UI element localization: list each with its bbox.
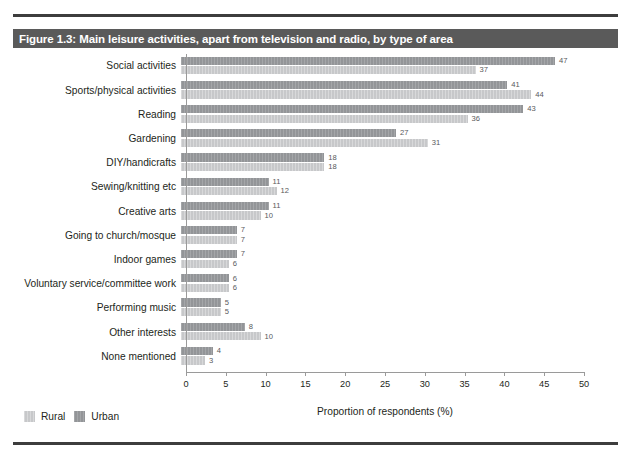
bar-group-row: Going to church/mosque77 — [0, 223, 631, 247]
figure-container: Figure 1.3: Main leisure activities, apa… — [0, 0, 631, 454]
x-tick-mark — [186, 372, 187, 376]
bar-urban[interactable] — [181, 274, 229, 282]
category-label: Sports/physical activities — [0, 85, 181, 96]
category-label: None mentioned — [0, 351, 181, 362]
bar-urban[interactable] — [181, 226, 237, 234]
bar-value-label: 47 — [555, 57, 567, 65]
bar-value-label: 37 — [476, 66, 488, 74]
bar-line-urban: 7 — [181, 250, 245, 258]
bar-line-rural: 37 — [181, 66, 488, 74]
bar-rural[interactable] — [181, 187, 277, 195]
x-tick-label: 0 — [183, 379, 188, 389]
bar-line-rural: 36 — [181, 115, 480, 123]
legend-swatch-urban-icon — [74, 411, 85, 422]
bar-line-rural: 7 — [181, 236, 245, 244]
bar-group-row: Creative arts1110 — [0, 199, 631, 223]
category-label: Indoor games — [0, 254, 181, 265]
bars-wrap: 1112 — [181, 175, 631, 199]
bar-line-rural: 6 — [181, 284, 237, 292]
bar-line-urban: 11 — [181, 202, 280, 210]
bars-wrap: 76 — [181, 248, 631, 272]
bar-urban[interactable] — [181, 153, 324, 161]
bar-value-label: 4 — [213, 347, 221, 355]
category-label: Reading — [0, 109, 181, 120]
category-label: Other interests — [0, 327, 181, 338]
plot-area: Social activities4737Sports/physical act… — [0, 54, 631, 376]
bar-rural[interactable] — [181, 139, 428, 147]
bar-value-label: 41 — [507, 81, 519, 89]
bar-value-label: 31 — [428, 139, 440, 147]
figure-title-band: Figure 1.3: Main leisure activities, apa… — [13, 29, 618, 48]
bars-wrap: 1818 — [181, 151, 631, 175]
bar-value-label: 6 — [229, 260, 237, 268]
bar-urban[interactable] — [181, 323, 245, 331]
x-tick-label: 15 — [300, 379, 310, 389]
bar-value-label: 11 — [269, 202, 281, 210]
bar-group-row: None mentioned43 — [0, 344, 631, 368]
bar-rural[interactable] — [181, 284, 229, 292]
bar-value-label: 6 — [229, 275, 237, 283]
legend-item-urban: Urban — [74, 411, 119, 422]
chart-legend: Rural Urban — [24, 411, 119, 422]
bar-rural[interactable] — [181, 356, 205, 364]
x-tick-mark — [345, 372, 346, 376]
category-label: Social activities — [0, 60, 181, 71]
bar-line-urban: 43 — [181, 105, 536, 113]
legend-swatch-rural-icon — [24, 411, 35, 422]
category-label: Creative arts — [0, 206, 181, 217]
x-tick-mark — [226, 372, 227, 376]
x-tick-label: 40 — [499, 379, 509, 389]
bar-rural[interactable] — [181, 260, 229, 268]
bar-group-row: Social activities4737 — [0, 54, 631, 78]
bar-line-urban: 47 — [181, 57, 568, 65]
bar-line-urban: 7 — [181, 226, 245, 234]
bar-rural[interactable] — [181, 236, 237, 244]
x-tick-mark — [385, 372, 386, 376]
bar-urban[interactable] — [181, 250, 237, 258]
bar-value-label: 36 — [468, 115, 480, 123]
bar-value-label: 5 — [221, 308, 229, 316]
x-axis-title: Proportion of respondents (%) — [186, 406, 584, 417]
bar-urban[interactable] — [181, 81, 507, 89]
bar-urban[interactable] — [181, 129, 396, 137]
bar-line-urban: 6 — [181, 274, 237, 282]
x-axis-ticks: 05101520253035404550 — [0, 372, 631, 396]
x-tick-mark — [425, 372, 426, 376]
y-axis-line — [186, 54, 187, 372]
bar-value-label: 10 — [261, 212, 273, 220]
bar-value-label: 10 — [261, 333, 273, 341]
bar-urban[interactable] — [181, 57, 555, 65]
x-tick-mark — [305, 372, 306, 376]
bottom-rule — [13, 442, 618, 445]
bar-line-urban: 8 — [181, 323, 253, 331]
bar-value-label: 11 — [269, 178, 281, 186]
bar-line-urban: 18 — [181, 153, 337, 161]
bar-rural[interactable] — [181, 332, 261, 340]
bar-urban[interactable] — [181, 178, 269, 186]
bars-wrap: 1110 — [181, 199, 631, 223]
category-label: Going to church/mosque — [0, 230, 181, 241]
bar-urban[interactable] — [181, 202, 269, 210]
bar-rural[interactable] — [181, 115, 468, 123]
bar-rural[interactable] — [181, 66, 476, 74]
bar-value-label: 44 — [531, 91, 543, 99]
bar-value-label: 27 — [396, 129, 408, 137]
x-tick-label: 50 — [579, 379, 589, 389]
x-tick-label: 5 — [223, 379, 228, 389]
bar-value-label: 3 — [205, 357, 213, 365]
bar-value-label: 7 — [237, 250, 245, 258]
bar-line-rural: 10 — [181, 211, 273, 219]
x-tick-label: 35 — [459, 379, 469, 389]
bars-wrap: 55 — [181, 296, 631, 320]
bar-rural[interactable] — [181, 163, 324, 171]
bar-urban[interactable] — [181, 105, 523, 113]
bars-wrap: 2731 — [181, 127, 631, 151]
x-tick-mark — [544, 372, 545, 376]
bar-rural[interactable] — [181, 211, 261, 219]
category-label: Sewing/knitting etc — [0, 181, 181, 192]
top-rule — [13, 14, 618, 17]
x-tick-label: 25 — [380, 379, 390, 389]
x-tick-mark — [584, 372, 585, 376]
bar-value-label: 7 — [237, 236, 245, 244]
bar-rural[interactable] — [181, 90, 531, 98]
